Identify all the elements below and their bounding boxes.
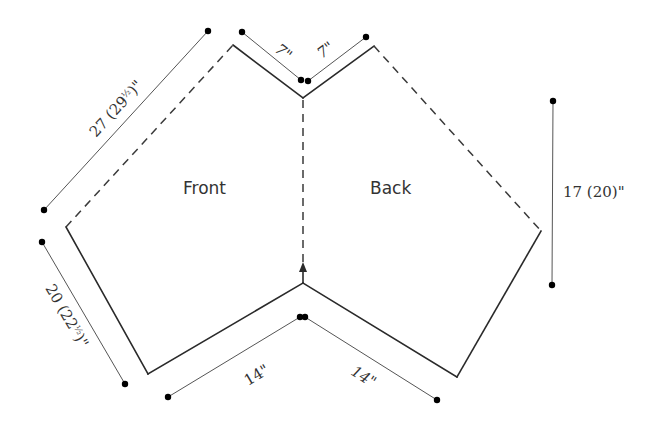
front-piece bbox=[66, 45, 303, 374]
dimension-back-height: 17 (20)" bbox=[549, 98, 625, 288]
front-bottom-edge bbox=[148, 283, 303, 374]
dimension-bottom-left: 14" bbox=[165, 314, 303, 400]
front-label: Front bbox=[183, 178, 226, 198]
center-seam bbox=[299, 100, 307, 283]
bottom-left-label: 14" bbox=[241, 361, 273, 390]
dimension-bottom-right: 14" bbox=[302, 314, 440, 403]
back-shoulder-edge bbox=[303, 46, 374, 98]
bottom-right-label: 14" bbox=[348, 362, 380, 391]
back-label: Back bbox=[370, 178, 411, 198]
shoulder-right-label: 7" bbox=[314, 38, 338, 62]
back-side-edge bbox=[457, 231, 541, 377]
back-fold-edge bbox=[374, 46, 541, 231]
dimension-shoulder-right: 7" bbox=[305, 34, 369, 84]
back-piece bbox=[303, 46, 541, 377]
arrow-up-icon bbox=[299, 262, 307, 272]
shoulder-left-label: 7" bbox=[272, 40, 296, 64]
back-height-label: 17 (20)" bbox=[563, 183, 625, 201]
front-side-edge bbox=[66, 227, 148, 374]
front-fold-edge bbox=[66, 45, 233, 227]
garment-schematic: 27 (29½)" 20 (22½)" 17 (20)" 7" 7" 14" bbox=[0, 0, 648, 436]
